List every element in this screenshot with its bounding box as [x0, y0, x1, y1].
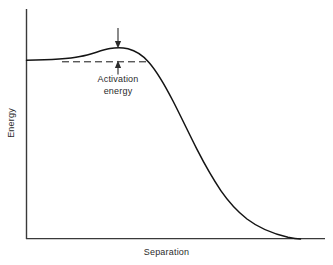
energy-curve — [27, 48, 301, 239]
y-axis-label: Energy — [6, 88, 16, 158]
activation-energy-arrow-up — [115, 61, 121, 75]
energy-separation-figure: Separation Energy Activation energy — [0, 0, 333, 265]
activation-energy-label: Activation energy — [78, 74, 158, 97]
x-axis-label: Separation — [0, 247, 333, 257]
activation-energy-label-line2: energy — [78, 86, 158, 98]
plot-canvas — [0, 0, 333, 265]
activation-energy-label-line1: Activation — [78, 74, 158, 86]
activation-energy-arrow-down — [115, 28, 121, 48]
